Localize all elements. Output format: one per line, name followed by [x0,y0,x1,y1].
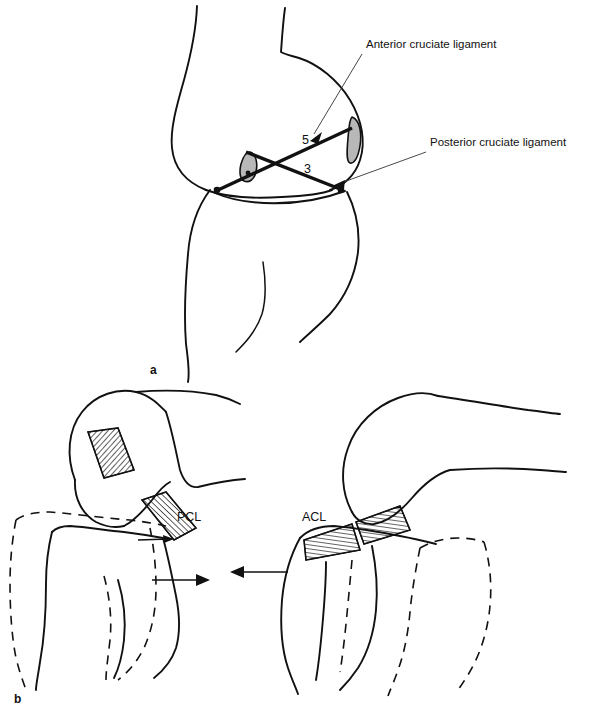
panel-a-label: a [150,363,157,377]
left-femur-posterior-shaft [166,412,245,487]
acl-tibial-attachment-dot [214,187,221,194]
right-femur-condyle-outline [343,393,438,512]
left-tibia-original-tubercle-dashed [104,576,111,680]
mid-crossing-dot [246,171,251,176]
left-tibia-displaced-tubercle [114,580,125,678]
right-femur-inferior-sweep [450,469,566,473]
left-tibia-displaced-posterior-edge [154,538,179,678]
measurement-number-three: 3 [304,162,311,176]
arrow-right-displacement [152,574,210,586]
left-femur-condyle-inferior [75,480,124,527]
measurement-number-five: 5 [302,133,309,147]
left-tibia-original-anterior-dashed [10,520,26,690]
left-femur-superior-shaft [136,391,240,404]
right-tibia-original-mid-dashed [388,548,420,696]
right-tibia-displaced-anterior-edge [281,538,300,694]
tibia-posterior-contour [300,192,359,342]
figure-canvas: Anterior cruciate ligament Posterior cru… [0,0,592,721]
lower-leg-taper-line [236,262,265,352]
right-tibia-original-anterior-dashed [340,560,352,672]
acl-label: ACL [302,510,326,524]
arrow-left-displacement [230,566,288,578]
pcl-label: PCL [177,510,201,524]
anterior-cruciate-ligament-band [218,128,352,190]
acl-callout-label: Anterior cruciate ligament [366,38,497,50]
panel-a-group: Anterior cruciate ligament Posterior cru… [150,6,567,382]
anatomical-figure: Anterior cruciate ligament Posterior cru… [0,0,592,721]
tibia-anterior-contour [185,190,210,382]
patella-shape [347,117,361,163]
right-femur-superior-shaft [438,396,560,414]
panel-b-label: b [14,692,21,706]
femur-anterior-contour [172,6,206,190]
pcl-callout-label: Posterior cruciate ligament [430,136,567,148]
left-tibia-displaced-anterior-edge [36,532,52,690]
left-femur-striation-patch [88,428,134,478]
left-tibia-displaced-outline [52,526,163,538]
right-tibia-displaced-tubercle [340,546,377,690]
panel-b-right-knee-group: ACL [230,393,566,696]
panel-b-left-knee-group: PCL [10,391,245,690]
right-tibia-lateral-shaft [316,562,326,680]
right-tibia-original-posterior-dashed [458,542,491,690]
